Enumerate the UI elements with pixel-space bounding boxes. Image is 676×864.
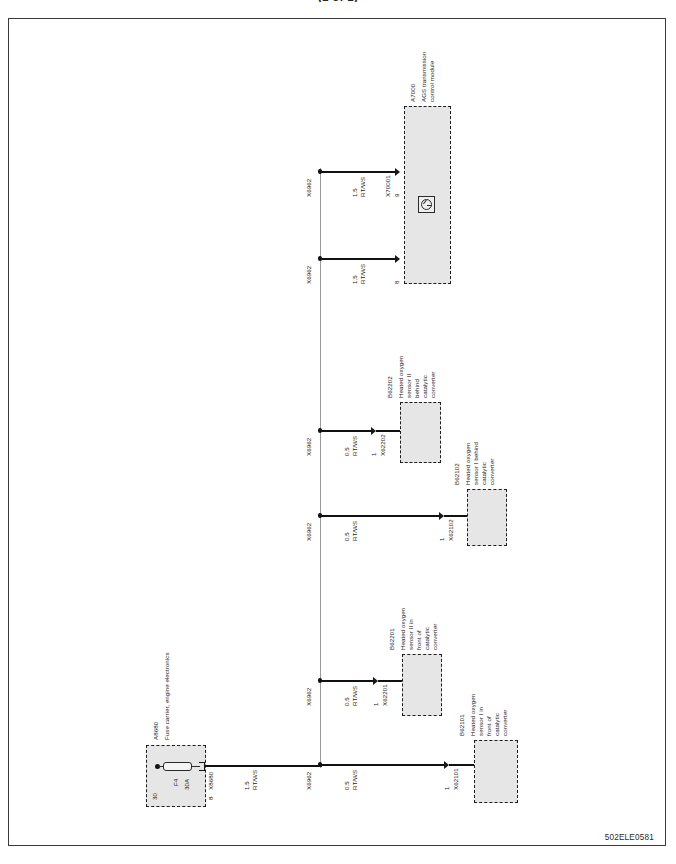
wiring-diagram-page: (1 of 1) 30 F4 30A X8680 8 A8680 Fuse ca…	[0, 0, 676, 864]
component-sensor-b62202[interactable]	[400, 402, 441, 463]
fuse-input-lead	[158, 766, 164, 768]
sensor-b62201-name-l4: catalytic	[423, 627, 430, 650]
fuse-carrier-id-label: A8680	[152, 722, 159, 740]
wire-branch-1-size: 0.5	[343, 781, 350, 790]
sensor-b62101-name-l5: converter	[501, 710, 508, 736]
sensor-b62202-name-l1: Heated oxygen	[397, 356, 404, 398]
sensor-b62201-name-l1: Heated oxygen	[399, 608, 406, 650]
fuse-input-terminal-label: 30	[151, 793, 158, 800]
wire-branch-2	[320, 680, 374, 683]
wire-branch-5-size: 1.5	[351, 275, 358, 284]
connector-label-x70001: X70001	[384, 175, 391, 197]
connector-arrow-x70001-9	[395, 168, 400, 176]
wire-branch-5-color: RT/WS	[359, 264, 366, 284]
sensor-b62102-name-l1: Heated oxygen	[464, 443, 471, 485]
bus-node-label-5: X6962	[305, 266, 312, 284]
wire-label-supply-color: RT/WS	[251, 770, 258, 790]
wire-branch-2-size: 0.5	[343, 697, 350, 706]
fuse-output-terminal-label: 8	[207, 797, 214, 801]
sensor-b62102-id: B62102	[453, 463, 460, 485]
wire-branch-4-tail	[376, 430, 401, 433]
wire-branch-3	[320, 515, 440, 518]
sensor-b62202-name-l5: converter	[429, 372, 436, 398]
wire-branch-1-tail	[449, 764, 475, 767]
fuse-rating-label: 30A	[183, 779, 190, 790]
terminal-label-x70001-8: 8	[394, 281, 401, 284]
connector-label-x62102: X62102	[447, 519, 454, 541]
wire-branch-1	[320, 764, 445, 767]
fuse-designation-label: F4	[172, 779, 179, 786]
terminal-label-x62102: 1	[438, 538, 445, 542]
sensor-b62101-name-l4: catalytic	[493, 713, 500, 736]
motor-symbol-line-2	[427, 205, 432, 206]
fuse-carrier-name-label: Fuse carrier, engine electronics	[163, 652, 170, 740]
wire-branch-2-color: RT/WS	[351, 686, 358, 706]
wire-branch-6-size: 1.5	[351, 188, 358, 197]
sensor-b62202-name-l4: catalytic	[421, 375, 428, 398]
motor-symbol-icon	[418, 196, 435, 213]
sensor-b62101-name-l1: Heated oxygen	[469, 694, 476, 736]
wire-branch-4-color: RT/WS	[351, 436, 358, 456]
bus-node-label-4: X6962	[305, 438, 312, 456]
page-title: (1 of 1)	[0, 0, 676, 2]
terminal-label-x62201: 1	[372, 703, 379, 707]
connector-notch-x8680	[199, 762, 205, 770]
wire-label-supply: 1.5	[243, 781, 250, 790]
tcm-name-line-2: control module	[428, 61, 435, 102]
bus-node-label-6: X6962	[305, 179, 312, 197]
sensor-b62201-id: B62201	[388, 628, 395, 650]
sensor-b62201-name-l5: converter	[431, 624, 438, 650]
sensor-b62102-name-l4: converter	[488, 459, 495, 485]
fuse-symbol	[163, 762, 192, 771]
wire-branch-1-color: RT/WS	[351, 770, 358, 790]
wire-branch-3-size: 0.5	[343, 532, 350, 541]
wire-branch-4-size: 0.5	[343, 447, 350, 456]
wire-supply-main	[205, 765, 322, 768]
sensor-b62102-name-l2: sensor I behind	[472, 442, 479, 485]
terminal-label-x62101: 1	[443, 787, 450, 791]
connector-label-x8680: X8680	[207, 772, 214, 790]
sensor-b62101-id: B62101	[458, 714, 465, 736]
connector-label-x62202: X62202	[379, 434, 386, 456]
document-code: 502ELE0581	[605, 833, 654, 842]
sensor-b62202-name-l2: sensor II	[405, 374, 412, 398]
bus-node-label-3: X6962	[305, 523, 312, 541]
connector-label-x62101: X62101	[452, 768, 459, 790]
sensor-b62101-name-l3: front of	[485, 716, 492, 736]
component-sensor-b62201[interactable]	[402, 654, 442, 716]
terminal-label-x62202: 1	[370, 453, 377, 457]
tcm-id-label: A7000	[409, 84, 416, 102]
tcm-name-line-1: AGS transmission	[420, 52, 427, 102]
sensor-b62202-id: B62202	[386, 376, 393, 398]
wire-branch-6	[320, 171, 396, 174]
sensor-b62201-name-l3: front of	[415, 630, 422, 650]
sensor-b62101-name-l2: sensor I in	[477, 707, 484, 736]
connector-arrow-x70001-8	[395, 255, 400, 263]
connector-label-x62201: X62201	[381, 684, 388, 706]
wire-branch-6-color: RT/WS	[359, 177, 366, 197]
wire-branch-2-tail	[378, 680, 403, 683]
sensor-b62202-name-l3: behind	[413, 379, 420, 398]
component-sensor-b62102[interactable]	[467, 489, 507, 546]
wire-branch-4	[320, 430, 372, 433]
wire-branch-3-color: RT/WS	[351, 521, 358, 541]
wire-branch-3-tail	[444, 515, 468, 518]
sensor-b62201-name-l2: sensor II in	[407, 619, 414, 650]
bus-node-label-1: X6962	[305, 772, 312, 790]
sensor-b62102-name-l3: catalytic	[480, 462, 487, 485]
bus-node-label-2: X6962	[305, 688, 312, 706]
component-sensor-b62101[interactable]	[474, 740, 518, 803]
terminal-label-x70001-9: 9	[394, 194, 401, 197]
component-tcm-a7000[interactable]	[404, 106, 451, 284]
wire-branch-5	[320, 258, 396, 261]
